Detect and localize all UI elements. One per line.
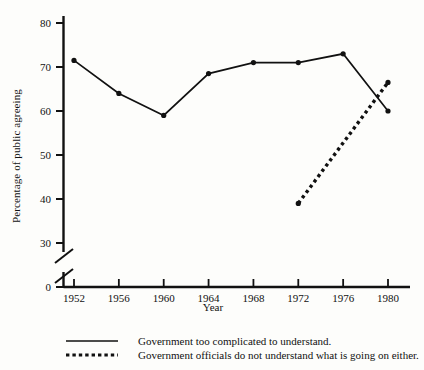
chart-figure: Percentage of public agreeing 0304050607… [0, 0, 424, 370]
data-point-marker [341, 51, 346, 56]
chart-legend: Government too complicated to understand… [66, 335, 419, 361]
dotted-line-path [298, 82, 388, 203]
y-tick-label: 40 [40, 193, 52, 205]
x-axis-title: Year [203, 301, 224, 313]
data-point-marker [296, 60, 301, 65]
y-tick-label: 60 [40, 105, 52, 117]
data-point-marker [116, 91, 121, 96]
y-axis-title: Percentage of public agreeing [10, 56, 22, 256]
data-point-marker [161, 113, 166, 118]
y-tick-label: 70 [40, 61, 52, 73]
y-tick-label: 50 [40, 149, 52, 161]
legend-label-government-too-complicated: Government too complicated to understand… [138, 335, 332, 347]
data-point-marker [206, 71, 211, 76]
chart-canvas: 0304050607080 19521956196019641968197219… [0, 0, 424, 370]
solid-line-path [74, 54, 388, 116]
x-axis-ticks: 19521956196019641968197219761980 [63, 279, 400, 304]
x-tick-label: 1980 [377, 292, 400, 304]
data-point-marker [385, 80, 390, 85]
y-tick-label: 0 [46, 281, 52, 293]
x-tick-label: 1960 [153, 292, 176, 304]
x-tick-label: 1972 [287, 292, 309, 304]
x-tick-label: 1976 [332, 292, 355, 304]
data-point-marker [251, 60, 256, 65]
data-point-marker [296, 201, 301, 206]
series-officials-do-not-understand [296, 80, 391, 206]
y-tick-label: 30 [40, 237, 52, 249]
x-tick-label: 1968 [242, 292, 265, 304]
series-government-too-complicated [71, 51, 390, 118]
legend-label-officials-do-not-understand: Government officials do not understand w… [138, 349, 419, 361]
y-tick-label: 80 [40, 17, 52, 29]
x-tick-label: 1952 [63, 292, 85, 304]
y-axis-ticks: 0304050607080 [40, 17, 64, 293]
data-point-marker [385, 108, 390, 113]
x-tick-label: 1956 [108, 292, 131, 304]
data-point-marker [71, 58, 76, 63]
